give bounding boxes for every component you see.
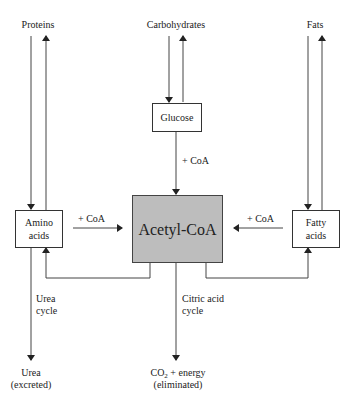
urea-output-line1: Urea bbox=[21, 367, 40, 379]
proteins-label: Proteins bbox=[22, 19, 55, 31]
energy-text: + energy bbox=[168, 367, 206, 378]
amino-acids-box: Amino acids bbox=[15, 210, 63, 248]
glucose-label: Glucose bbox=[161, 111, 194, 124]
amino-acids-line1: Amino bbox=[25, 216, 53, 229]
urea-output-line2: (excreted) bbox=[11, 379, 52, 391]
citric-cycle-line2: cycle bbox=[182, 305, 203, 317]
fatty-acids-line1: Fatty bbox=[306, 216, 327, 229]
co2-text: CO bbox=[150, 367, 164, 378]
glucose-box: Glucose bbox=[152, 103, 202, 132]
urea-cycle-line1: Urea bbox=[36, 293, 55, 305]
fatty-acids-box: Fatty acids bbox=[292, 210, 340, 248]
carbohydrates-label: Carbohydrates bbox=[147, 19, 205, 31]
fats-label: Fats bbox=[307, 19, 324, 31]
acetyl-coa-label: Acetyl-CoA bbox=[138, 223, 216, 236]
citric-cycle-line1: Citric acid bbox=[182, 293, 224, 305]
urea-cycle-line2: cycle bbox=[36, 305, 57, 317]
fatty-acids-line2: acids bbox=[306, 229, 327, 242]
co2-output-line2: (eliminated) bbox=[154, 379, 203, 391]
glucose-coa-label: + CoA bbox=[182, 155, 209, 167]
amino-coa-label: + CoA bbox=[78, 213, 105, 225]
amino-acids-line2: acids bbox=[29, 229, 50, 242]
fatty-coa-label: + CoA bbox=[247, 213, 274, 225]
acetyl-coa-box: Acetyl-CoA bbox=[132, 195, 223, 263]
